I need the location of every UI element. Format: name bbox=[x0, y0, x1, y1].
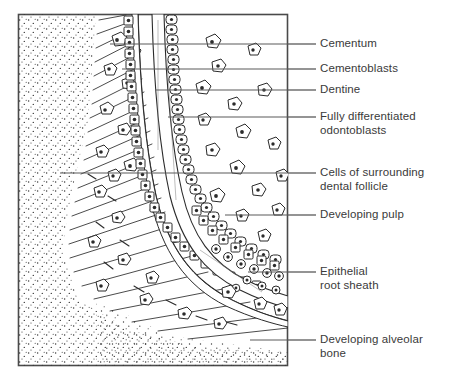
leader-lines bbox=[288, 44, 316, 340]
label-root-sheath: Epithelialroot sheath bbox=[320, 265, 379, 292]
label-cementum: Cementum bbox=[320, 37, 377, 51]
label-pulp: Developing pulp bbox=[320, 208, 404, 222]
label-odontoblasts: Fully differentiatedodontoblasts bbox=[320, 110, 416, 137]
label-cementoblasts: Cementoblasts bbox=[320, 62, 398, 76]
label-dentine: Dentine bbox=[320, 83, 360, 97]
label-alveolar-bone: Developing alveolarbone bbox=[320, 333, 423, 360]
label-dental-follicle: Cells of surroundingdental follicle bbox=[320, 166, 424, 193]
